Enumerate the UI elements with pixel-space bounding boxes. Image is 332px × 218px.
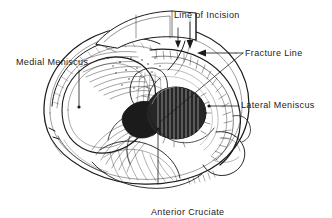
label-line-of-incision: Line of Incision bbox=[174, 10, 240, 21]
label-fracture-line: Fracture Line bbox=[245, 48, 303, 59]
label-lateral-meniscus: Lateral Meniscus bbox=[241, 100, 315, 111]
leader-lateral-meniscus bbox=[207, 104, 239, 107]
anatomy-figure: Medial Meniscus Line of Incision Fractur… bbox=[0, 0, 332, 218]
leader-medial-meniscus bbox=[77, 70, 80, 109]
label-anterior-cruciate-ligament: Anterior Cruciate Ligament bbox=[151, 186, 224, 218]
label-acl-line-1: Anterior Cruciate bbox=[151, 207, 224, 218]
capsular-flap-fibers bbox=[78, 51, 150, 99]
leader-anterior-cruciate-ligament bbox=[156, 127, 159, 184]
anterior-tibial-soft-tissue bbox=[92, 141, 202, 188]
label-medial-meniscus: Medial Meniscus bbox=[16, 57, 88, 68]
bone-stipple bbox=[107, 57, 160, 88]
